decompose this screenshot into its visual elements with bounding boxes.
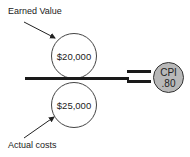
fraction-bar (25, 77, 129, 80)
actual-costs-circle: $25,000 (51, 82, 97, 128)
arrow-earned-value (24, 22, 55, 38)
actual-costs-amount: $25,000 (57, 100, 91, 111)
earned-value-label: Earned Value (8, 6, 62, 16)
cpi-value: .80 (162, 78, 176, 89)
equals-sign-bottom (127, 80, 151, 83)
equals-sign-top (127, 70, 151, 73)
arrow-actual-costs (24, 117, 54, 138)
earned-value-circle: $20,000 (51, 33, 97, 79)
earned-value-amount: $20,000 (57, 51, 91, 62)
actual-costs-label: Actual costs (8, 140, 57, 150)
cpi-title: CPI (160, 67, 177, 78)
cpi-result-circle: CPI .80 (153, 62, 184, 93)
